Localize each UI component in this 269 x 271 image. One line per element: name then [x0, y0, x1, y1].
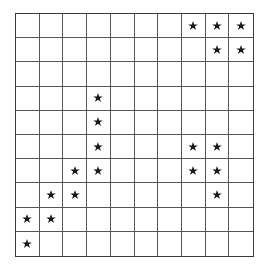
grid-cell-r1-c6 [135, 14, 159, 38]
grid-cell-r1-c3 [63, 14, 87, 38]
grid-cell-r4-c7 [158, 87, 182, 111]
grid-cell-r10-c7 [158, 232, 182, 256]
grid-cell-r4-c4 [87, 87, 111, 111]
grid-cell-r10-c9 [206, 232, 230, 256]
grid-cell-r2-c1 [16, 38, 40, 62]
grid-cell-r7-c4 [87, 159, 111, 183]
star-icon [236, 20, 247, 31]
grid-cell-r9-c9 [206, 208, 230, 232]
grid-cell-r3-c1 [16, 62, 40, 86]
star-icon [211, 20, 222, 31]
grid-cell-r8-c3 [63, 183, 87, 207]
star-icon [188, 165, 199, 176]
figure-canvas [0, 0, 269, 271]
grid-cell-r9-c5 [111, 208, 135, 232]
grid-cell-r3-c3 [63, 62, 87, 86]
grid-cell-r5-c10 [229, 111, 253, 135]
grid-cell-r9-c2 [40, 208, 64, 232]
grid-cell-r3-c6 [135, 62, 159, 86]
grid-cell-r6-c2 [40, 135, 64, 159]
grid-cell-r10-c5 [111, 232, 135, 256]
grid-cell-r2-c3 [63, 38, 87, 62]
grid-cell-r2-c4 [87, 38, 111, 62]
grid-cell-r7-c10 [229, 159, 253, 183]
grid-cell-r1-c2 [40, 14, 64, 38]
grid-cell-r9-c1 [16, 208, 40, 232]
star-icon [93, 165, 104, 176]
star-icon [211, 189, 222, 200]
star-icon [46, 189, 57, 200]
grid-cell-r5-c3 [63, 111, 87, 135]
grid-cell-r5-c6 [135, 111, 159, 135]
grid-cell-r5-c9 [206, 111, 230, 135]
grid-cell-r2-c7 [158, 38, 182, 62]
grid-cell-r8-c10 [229, 183, 253, 207]
grid-cell-r1-c8 [182, 14, 206, 38]
grid-cell-r8-c1 [16, 183, 40, 207]
grid-cell-r5-c4 [87, 111, 111, 135]
grid-cell-r9-c4 [87, 208, 111, 232]
star-icon [188, 141, 199, 152]
grid-cell-r1-c1 [16, 14, 40, 38]
grid-cell-r8-c5 [111, 183, 135, 207]
star-icon [69, 165, 80, 176]
grid-cell-r2-c5 [111, 38, 135, 62]
grid-cell-r8-c2 [40, 183, 64, 207]
grid-cell-r3-c5 [111, 62, 135, 86]
grid-cell-r6-c8 [182, 135, 206, 159]
grid-cell-r1-c10 [229, 14, 253, 38]
star-icon [93, 117, 104, 128]
grid-cell-r6-c9 [206, 135, 230, 159]
grid-cell-r3-c10 [229, 62, 253, 86]
grid-cell-r8-c9 [206, 183, 230, 207]
grid-cell-r2-c8 [182, 38, 206, 62]
grid-cell-r5-c2 [40, 111, 64, 135]
grid-cell-r6-c1 [16, 135, 40, 159]
grid-cell-r10-c4 [87, 232, 111, 256]
star-icon [22, 238, 33, 249]
grid-cell-r8-c4 [87, 183, 111, 207]
grid-cell-r1-c4 [87, 14, 111, 38]
grid-cell-r1-c5 [111, 14, 135, 38]
star-icon [22, 214, 33, 225]
star-icon [211, 44, 222, 55]
grid-cell-r6-c4 [87, 135, 111, 159]
grid-cell-r1-c7 [158, 14, 182, 38]
grid-cell-r8-c6 [135, 183, 159, 207]
grid-cell-r8-c8 [182, 183, 206, 207]
grid-cell-r1-c9 [206, 14, 230, 38]
grid-cell-r7-c9 [206, 159, 230, 183]
star-icon [69, 189, 80, 200]
grid-cell-r6-c7 [158, 135, 182, 159]
star-icon [93, 93, 104, 104]
grid-cell-r4-c3 [63, 87, 87, 111]
grid-cell-r8-c7 [158, 183, 182, 207]
grid-cell-r9-c6 [135, 208, 159, 232]
grid-cell-r3-c8 [182, 62, 206, 86]
grid-cell-r2-c6 [135, 38, 159, 62]
grid-cell-r7-c8 [182, 159, 206, 183]
grid-cell-r4-c5 [111, 87, 135, 111]
grid-cell-r5-c1 [16, 111, 40, 135]
grid-cell-r10-c3 [63, 232, 87, 256]
grid-cell-r7-c2 [40, 159, 64, 183]
grid-cell-r10-c2 [40, 232, 64, 256]
star-icon [46, 214, 57, 225]
grid-cell-r9-c8 [182, 208, 206, 232]
grid-cell-r4-c1 [16, 87, 40, 111]
grid-cell-r4-c2 [40, 87, 64, 111]
grid-cell-r4-c8 [182, 87, 206, 111]
grid-cell-r3-c4 [87, 62, 111, 86]
grid-cell-r3-c9 [206, 62, 230, 86]
grid-cell-r10-c8 [182, 232, 206, 256]
grid-cell-r5-c7 [158, 111, 182, 135]
grid-cell-r9-c3 [63, 208, 87, 232]
grid-cell-r10-c1 [16, 232, 40, 256]
grid-cell-r7-c6 [135, 159, 159, 183]
grid-cell-r4-c10 [229, 87, 253, 111]
grid-cell-r3-c2 [40, 62, 64, 86]
grid-cell-r6-c6 [135, 135, 159, 159]
grid-cell-r9-c10 [229, 208, 253, 232]
star-icon [188, 20, 199, 31]
grid-cell-r7-c5 [111, 159, 135, 183]
